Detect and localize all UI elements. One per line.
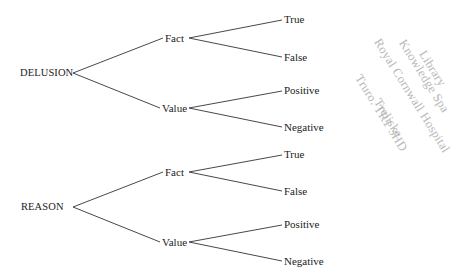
edge-delusion-value bbox=[73, 73, 160, 108]
leaf-node-negative: Negative bbox=[284, 121, 324, 133]
tree-connectors bbox=[0, 0, 456, 274]
edge-reason-fact bbox=[73, 172, 163, 207]
edge-fact-false-2 bbox=[189, 172, 282, 191]
edge-fact-true-2 bbox=[189, 155, 282, 172]
edge-value-positive-2 bbox=[189, 225, 282, 242]
leaf-node-positive: Positive bbox=[284, 84, 319, 96]
branch-node-value: Value bbox=[162, 102, 187, 114]
edge-delusion-fact bbox=[73, 38, 163, 73]
leaf-node-true: True bbox=[284, 148, 304, 160]
leaf-node-false: False bbox=[284, 185, 307, 197]
branch-node-fact: Fact bbox=[165, 166, 184, 178]
root-node-delusion: DELUSION bbox=[20, 67, 73, 79]
edge-value-positive bbox=[189, 91, 282, 108]
leaf-node-negative: Negative bbox=[284, 255, 324, 267]
leaf-node-true: True bbox=[284, 13, 304, 25]
leaf-node-false: False bbox=[284, 51, 307, 63]
branch-node-value: Value bbox=[162, 236, 187, 248]
edge-value-negative-2 bbox=[189, 242, 282, 261]
edge-reason-value bbox=[73, 207, 160, 242]
edge-value-negative bbox=[189, 108, 282, 127]
leaf-node-positive: Positive bbox=[284, 218, 319, 230]
edge-fact-true bbox=[189, 20, 282, 38]
root-node-reason: REASON bbox=[21, 201, 64, 213]
edge-fact-false bbox=[189, 38, 282, 57]
branch-node-fact: Fact bbox=[165, 32, 184, 44]
tree-diagram: DELUSION Fact Value True False Positive … bbox=[0, 0, 456, 274]
